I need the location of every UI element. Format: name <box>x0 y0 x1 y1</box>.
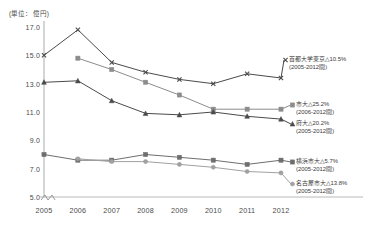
legend-label-primary: 市大△25.2% <box>296 101 329 107</box>
data-point-marker <box>110 67 114 71</box>
legend-label-primary: 首都大学東京△10.5% <box>289 56 346 62</box>
legend-label-primary: 横浜市大△5.7% <box>296 158 338 164</box>
legend-leader-line <box>281 173 291 184</box>
data-point-marker <box>143 159 147 163</box>
series-line <box>78 58 281 109</box>
data-point-marker <box>245 107 249 111</box>
data-point-marker <box>290 182 294 186</box>
data-point-marker <box>177 155 181 159</box>
data-point-marker <box>177 93 181 97</box>
legend-label-period: (2005-2012間) <box>296 166 338 174</box>
data-point-marker <box>76 56 80 60</box>
data-point-marker <box>143 80 147 84</box>
data-point-marker <box>211 165 215 169</box>
data-point-marker <box>76 157 80 161</box>
legend-item-横浜市大: 横浜市大△5.7%(2005-2012間) <box>296 158 338 173</box>
legend-leader-line <box>281 60 284 78</box>
data-point-marker <box>177 162 181 166</box>
data-point-marker <box>290 160 294 164</box>
legend-label-period: (2005-2012間) <box>289 64 346 72</box>
data-point-marker <box>110 159 114 163</box>
series-1 <box>76 56 283 111</box>
legend-label-period: (2005-2012間) <box>296 128 334 136</box>
data-point-marker <box>245 162 249 166</box>
data-point-marker <box>211 158 215 162</box>
legend-item-名古屋市大: 名古屋市大△13.8%(2005-2012間) <box>296 180 347 195</box>
line-chart: (単位：億円) 17.015.013.011.09.07.05.0 200520… <box>0 0 365 233</box>
legend-item-市大: 市大△25.2%(2006-2012間) <box>296 101 334 116</box>
data-point-marker <box>109 98 114 103</box>
data-point-marker <box>143 152 147 156</box>
plot-area <box>0 0 365 233</box>
legend-item-府大: 府大△20.2%(2005-2012間) <box>296 120 334 135</box>
legend-label-primary: 名古屋市大△13.8% <box>296 180 347 186</box>
data-point-marker <box>245 169 249 173</box>
data-point-marker <box>283 58 287 62</box>
data-point-marker <box>42 152 46 156</box>
legend-label-period: (2005-2012間) <box>296 188 347 196</box>
legend-leader-line <box>281 119 291 124</box>
series-line <box>44 81 281 119</box>
legend-label-primary: 府大△20.2% <box>296 120 329 126</box>
data-point-marker <box>76 28 80 32</box>
legend-item-首都大学東京: 首都大学東京△10.5%(2005-2012間) <box>289 56 346 71</box>
data-point-marker <box>290 103 294 107</box>
legend-label-period: (2006-2012間) <box>296 109 334 117</box>
series-2 <box>42 78 284 121</box>
